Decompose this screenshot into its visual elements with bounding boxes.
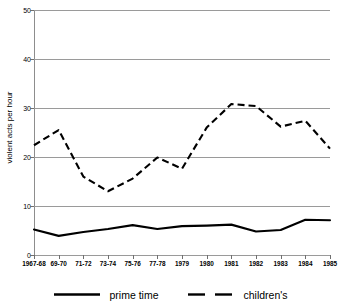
x-tick-label: 1983 (274, 260, 288, 267)
gridline (34, 157, 330, 158)
solid-line-icon (54, 289, 100, 300)
x-tick-mark (281, 255, 282, 259)
x-tick-mark (83, 255, 84, 259)
gridline (34, 59, 330, 60)
x-tick-mark (157, 255, 158, 259)
x-tick-mark (207, 255, 208, 259)
x-tick-mark (305, 255, 306, 259)
legend-entry-prime-time: prime time (54, 289, 158, 301)
chart-legend: prime time children's (0, 282, 342, 307)
legend-label-prime-time: prime time (109, 289, 158, 301)
legend-label-childrens: children's (243, 289, 287, 301)
y-tick-mark (30, 157, 34, 158)
x-tick-label: 75-76 (124, 260, 140, 267)
x-tick-mark (108, 255, 109, 259)
x-tick-mark (231, 255, 232, 259)
x-tick-mark (182, 255, 183, 259)
x-tick-label: 1967-68 (22, 260, 45, 267)
y-axis-title: violent acts per hour (2, 0, 16, 255)
plot-area: 01020304050 (34, 10, 330, 255)
x-tick-label: 73-74 (100, 260, 116, 267)
x-tick-label: 1985 (323, 260, 337, 267)
gridline (34, 108, 330, 109)
dashed-line-icon (188, 289, 234, 300)
line-chart: violent acts per hour 01020304050 1967-6… (0, 0, 342, 307)
x-tick-mark (256, 255, 257, 259)
gridline (34, 10, 330, 11)
y-tick-mark (30, 108, 34, 109)
x-tick-mark (133, 255, 134, 259)
x-tick-label: 1980 (200, 260, 214, 267)
x-tick-mark (34, 255, 35, 259)
x-tick-label: 1982 (249, 260, 263, 267)
y-tick-mark (30, 59, 34, 60)
x-tick-mark (59, 255, 60, 259)
x-tick-label: 69-70 (50, 260, 66, 267)
legend-entry-childrens: children's (188, 289, 287, 301)
x-tick-label: 1979 (175, 260, 189, 267)
x-tick-label: 1981 (224, 260, 238, 267)
x-tick-label: 1984 (298, 260, 312, 267)
x-tick-mark (330, 255, 331, 259)
y-tick-mark (30, 10, 34, 11)
x-tick-label: 77-78 (149, 260, 165, 267)
gridline (34, 206, 330, 207)
y-tick-mark (30, 206, 34, 207)
x-tick-label: 71-72 (75, 260, 91, 267)
